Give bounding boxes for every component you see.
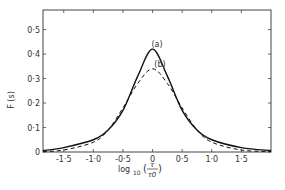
y-tick-label: 0·5: [27, 26, 40, 35]
y-tick-label: 0: [35, 148, 40, 157]
y-tick-label: 0·1: [27, 124, 40, 133]
svg-text:log: log: [118, 165, 130, 174]
svg-text:(: (: [143, 163, 147, 174]
y-axis-label: F (s): [7, 91, 16, 109]
plot-area: -1·5-1·0-0·500·51·01·500·10·20·30·40·5: [27, 10, 271, 164]
x-tick-label: -0·5: [115, 155, 131, 164]
y-tick-label: 0·2: [27, 99, 40, 108]
x-tick-label: 1·5: [235, 155, 248, 164]
plot-frame: [43, 10, 271, 152]
svg-text:τ0: τ0: [148, 171, 157, 179]
chart: -1·5-1·0-0·500·51·01·500·10·20·30·40·5 F…: [0, 0, 285, 190]
y-tick-label: 0·3: [27, 75, 40, 84]
svg-text:10: 10: [133, 169, 141, 176]
x-tick-label: 0·5: [176, 155, 189, 164]
x-tick-label: -1·0: [86, 155, 102, 164]
x-tick-label: -1·5: [56, 155, 72, 164]
y-tick-label: 0·4: [27, 50, 40, 59]
series-b-line: [43, 69, 271, 152]
annotation-a: (a): [151, 40, 162, 49]
annotation-b: (b): [154, 60, 165, 69]
x-tick-label: 1·0: [205, 155, 218, 164]
svg-text:): ): [158, 163, 162, 174]
